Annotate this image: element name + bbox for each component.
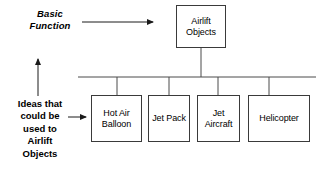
node-airlift-objects[interactable]: Airlift Objects (176, 5, 226, 48)
node-jet-aircraft-label: Jet Aircraft (198, 108, 239, 130)
annotation-ideas-that-could-be-used: Ideas that could be used to Airlift Obje… (0, 98, 80, 160)
node-jet-pack-label: Jet Pack (151, 113, 187, 124)
node-airlift-objects-label: Airlift Objects (177, 16, 225, 38)
diagram-canvas: Airlift Objects Hot Air Balloon Jet Pack… (0, 0, 320, 176)
node-hot-air-balloon[interactable]: Hot Air Balloon (91, 95, 142, 142)
node-jet-aircraft[interactable]: Jet Aircraft (197, 95, 240, 142)
node-helicopter-label: Helicopter (258, 113, 300, 124)
node-hot-air-balloon-label: Hot Air Balloon (92, 108, 141, 130)
node-helicopter[interactable]: Helicopter (248, 95, 310, 142)
annotation-basic-function: Basic Function (14, 8, 86, 32)
node-jet-pack[interactable]: Jet Pack (148, 95, 190, 142)
